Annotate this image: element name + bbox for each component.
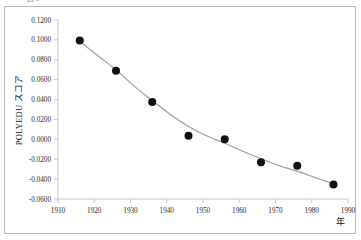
y-tick-label: 0.0400 xyxy=(31,96,51,104)
y-tick-marks xyxy=(54,20,58,199)
y-axis-title: POLYEDU スコア xyxy=(14,75,24,146)
data-point-marker xyxy=(330,181,338,189)
y-tick-label: 0.0600 xyxy=(31,76,51,84)
y-tick-label: 0.0000 xyxy=(31,136,51,144)
y-tick-label: 0.1200 xyxy=(31,17,51,25)
y-tick-label: 0.0800 xyxy=(31,56,51,64)
data-point-marker xyxy=(76,36,84,44)
axes xyxy=(58,20,348,199)
figure-root: 図 2 -0.0600-0.0400-0.02000.00000.02000.0… xyxy=(0,0,361,240)
y-tick-label: -0.0400 xyxy=(29,176,52,184)
data-point-marker xyxy=(185,132,193,140)
x-tick-label: 1930 xyxy=(123,207,138,215)
x-tick-label: 1910 xyxy=(51,207,66,215)
x-tick-label: 1960 xyxy=(232,207,247,215)
data-point-marker xyxy=(112,67,120,75)
y-tick-label: -0.0600 xyxy=(29,196,52,204)
x-axis-title: 年 xyxy=(336,216,345,227)
x-tick-label: 1970 xyxy=(268,207,283,215)
data-point-group xyxy=(76,36,338,188)
y-tick-label: 0.0200 xyxy=(31,116,51,124)
data-point-marker xyxy=(293,162,301,170)
x-tick-label: 1990 xyxy=(341,207,356,215)
data-point-marker xyxy=(148,98,156,106)
y-tick-labels: -0.0600-0.0400-0.02000.00000.02000.04000… xyxy=(29,17,52,204)
x-tick-label: 1950 xyxy=(196,207,211,215)
y-tick-label: -0.0200 xyxy=(29,156,52,164)
data-point-marker xyxy=(221,135,229,143)
x-tick-label: 1920 xyxy=(87,207,102,215)
x-tick-marks xyxy=(58,199,348,203)
chart-canvas: -0.0600-0.0400-0.02000.00000.02000.04000… xyxy=(0,0,361,240)
x-tick-labels: 191019201930194019501960197019801990 xyxy=(51,207,356,215)
x-tick-label: 1980 xyxy=(305,207,320,215)
x-tick-label: 1940 xyxy=(160,207,175,215)
data-point-marker xyxy=(257,158,265,166)
y-tick-label: 0.1000 xyxy=(31,36,51,44)
